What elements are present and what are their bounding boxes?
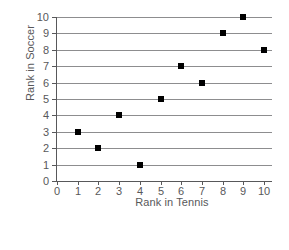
y-axis-tick-label: 10 [25, 12, 49, 23]
data-point [220, 30, 226, 36]
gridline [57, 148, 272, 149]
y-axis-tick [52, 66, 57, 67]
gridline [57, 99, 272, 100]
data-point [158, 96, 164, 102]
y-axis-tick [52, 83, 57, 84]
y-axis-tick [52, 165, 57, 166]
gridline [57, 50, 272, 51]
plot-area: 012345678910 012345678910 [0, 0, 289, 250]
y-axis-tick-label: 2 [25, 143, 49, 154]
y-axis-tick [52, 33, 57, 34]
scatter-chart: Rank in Soccer Rank in Tennis 0123456789… [0, 0, 289, 250]
gridline [57, 66, 272, 67]
data-point [137, 162, 143, 168]
y-axis-tick [52, 115, 57, 116]
y-axis-tick-label: 6 [25, 78, 49, 89]
data-point [95, 145, 101, 151]
y-axis-tick-label: 7 [25, 61, 49, 72]
data-point [261, 47, 267, 53]
data-point [199, 80, 205, 86]
gridline [57, 115, 272, 116]
y-axis-tick-label: 4 [25, 110, 49, 121]
y-axis-tick [52, 132, 57, 133]
x-axis-tick-label: 10 [252, 186, 276, 197]
gridline [57, 165, 272, 166]
gridline [57, 132, 272, 133]
y-axis-tick-label: 3 [25, 127, 49, 138]
x-axis-line [57, 181, 272, 182]
data-point [75, 129, 81, 135]
y-axis-tick-label: 9 [25, 28, 49, 39]
y-axis-tick [52, 50, 57, 51]
gridline [57, 83, 272, 84]
data-point [116, 112, 122, 118]
y-axis-tick [52, 17, 57, 18]
y-axis-tick [52, 148, 57, 149]
y-axis-tick-label: 8 [25, 45, 49, 56]
y-axis-tick-label: 1 [25, 160, 49, 171]
y-axis-tick-label: 5 [25, 94, 49, 105]
data-point [240, 14, 246, 20]
y-axis-tick [52, 99, 57, 100]
gridline [57, 33, 272, 34]
data-point [178, 63, 184, 69]
